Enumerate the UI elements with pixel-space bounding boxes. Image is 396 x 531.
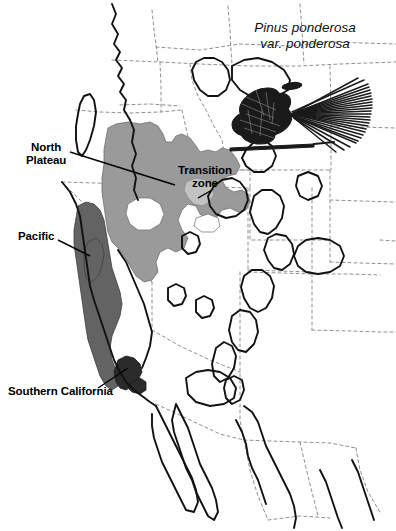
label-southern-california: Southern California [8, 385, 113, 398]
title-species: Pinus ponderosa [230, 20, 380, 36]
title-variety: var. ponderosa [230, 36, 380, 52]
label-pacific: Pacific [18, 230, 54, 243]
figure-title: Pinus ponderosa var. ponderosa [230, 20, 380, 52]
pine-cone-illustration [218, 76, 378, 156]
label-north-plateau: North Plateau [26, 141, 66, 167]
region-hole [126, 198, 164, 230]
label-transition-zone: Transition zone [178, 164, 232, 190]
figure-container: Pinus ponderosa var. ponderosa North Pla… [0, 0, 396, 531]
